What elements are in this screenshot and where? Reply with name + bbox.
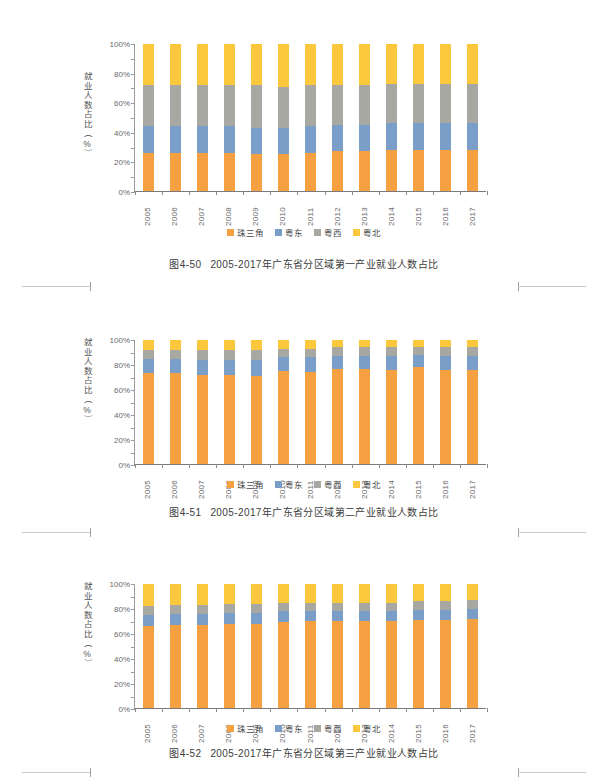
legend-item-珠三角[interactable]: 珠三角 — [227, 722, 264, 734]
stacked-bar[interactable] — [224, 44, 235, 191]
x-axis-tick-mark — [325, 708, 326, 712]
stacked-bar[interactable] — [197, 340, 208, 464]
bar-segment-粤东 — [197, 360, 208, 375]
y-axis-tick-mark — [131, 440, 135, 441]
stacked-bar[interactable] — [143, 340, 154, 464]
stacked-bar[interactable] — [305, 584, 316, 708]
stacked-bar[interactable] — [440, 44, 451, 191]
stacked-bar[interactable] — [278, 44, 289, 191]
legend-item-珠三角[interactable]: 珠三角 — [227, 478, 264, 490]
stacked-bar[interactable] — [170, 44, 181, 191]
legend-item-粤东[interactable]: 粤东 — [275, 226, 303, 238]
stacked-bar[interactable] — [278, 340, 289, 464]
stacked-bar[interactable] — [467, 340, 478, 464]
stacked-bar[interactable] — [413, 584, 424, 708]
stacked-bar[interactable] — [170, 340, 181, 464]
x-axis-tick-mark — [460, 464, 461, 468]
stacked-bar[interactable] — [386, 44, 397, 191]
bar-segment-粤东 — [170, 614, 181, 625]
bar-segment-粤西 — [143, 606, 154, 615]
bar-segment-粤西 — [224, 85, 235, 126]
stacked-bar[interactable] — [332, 44, 343, 191]
crop-mark-right — [496, 528, 586, 537]
stacked-bar[interactable] — [251, 44, 262, 191]
bar-segment-粤西 — [359, 347, 370, 356]
x-axis-tick-mark — [460, 191, 461, 195]
y-axis-tick-label: 60% — [114, 99, 130, 108]
stacked-bar[interactable] — [305, 44, 316, 191]
stacked-bar[interactable] — [251, 584, 262, 708]
bar-segment-粤北 — [251, 340, 262, 350]
stacked-bar[interactable] — [197, 584, 208, 708]
crop-mark-tick — [90, 282, 91, 291]
bar-segment-珠三角 — [197, 153, 208, 191]
legend-swatch-icon — [275, 725, 282, 732]
y-axis-tick-mark — [131, 697, 135, 698]
stacked-bar[interactable] — [332, 584, 343, 708]
crop-mark-tick — [90, 528, 91, 537]
crop-mark-left — [22, 528, 112, 537]
stacked-bar[interactable] — [413, 44, 424, 191]
x-axis-label: 2016 — [432, 196, 459, 226]
stacked-bar[interactable] — [251, 340, 262, 464]
y-axis-tick-mark — [131, 353, 135, 354]
legend-item-粤北[interactable]: 粤北 — [353, 478, 381, 490]
x-axis-tick-mark — [460, 708, 461, 712]
bar-segment-粤北 — [251, 584, 262, 604]
x-axis-tick-mark — [433, 464, 434, 468]
stacked-bar[interactable] — [332, 340, 343, 464]
y-axis-tick-mark — [131, 634, 135, 635]
stacked-bar[interactable] — [143, 584, 154, 708]
stacked-bar[interactable] — [278, 584, 289, 708]
x-axis-tick-mark — [406, 464, 407, 468]
y-axis-tick-mark — [131, 192, 135, 193]
bar-slot — [135, 340, 162, 464]
x-axis-tick-mark — [162, 464, 163, 468]
y-axis-tick-mark — [131, 162, 135, 163]
stacked-bar[interactable] — [413, 340, 424, 464]
legend-item-粤东[interactable]: 粤东 — [275, 722, 303, 734]
legend-item-粤西[interactable]: 粤西 — [314, 226, 342, 238]
stacked-bar[interactable] — [467, 584, 478, 708]
bar-segment-珠三角 — [278, 622, 289, 708]
stacked-bar[interactable] — [467, 44, 478, 191]
figure-number: 图4-51 — [169, 507, 201, 518]
legend-item-粤西[interactable]: 粤西 — [314, 722, 342, 734]
bar-segment-粤西 — [332, 85, 343, 125]
x-axis-tick-mark — [487, 708, 488, 712]
stacked-bar[interactable] — [197, 44, 208, 191]
stacked-bar[interactable] — [440, 584, 451, 708]
figure-caption: 图4-502005-2017年广东省分区域第一产业就业人数占比 — [0, 256, 608, 271]
x-axis-label: 2012 — [324, 196, 351, 226]
stacked-bar[interactable] — [440, 340, 451, 464]
bar-segment-粤西 — [143, 85, 154, 126]
x-axis-tick-mark — [325, 464, 326, 468]
x-axis-tick-mark — [189, 464, 190, 468]
bar-segment-珠三角 — [440, 370, 451, 464]
legend-item-珠三角[interactable]: 珠三角 — [227, 226, 264, 238]
stacked-bar[interactable] — [305, 340, 316, 464]
bar-segment-粤西 — [440, 347, 451, 356]
crop-mark-right — [496, 282, 586, 291]
stacked-bar[interactable] — [143, 44, 154, 191]
stacked-bar[interactable] — [224, 340, 235, 464]
stacked-bar[interactable] — [224, 584, 235, 708]
legend-item-粤北[interactable]: 粤北 — [353, 226, 381, 238]
stacked-bar[interactable] — [359, 340, 370, 464]
bar-segment-粤西 — [359, 85, 370, 125]
bar-slot — [324, 44, 351, 191]
bar-slot — [243, 340, 270, 464]
bar-segment-珠三角 — [413, 620, 424, 708]
x-axis-labels: 2005200620072008200920102011201220132014… — [134, 196, 486, 226]
stacked-bar[interactable] — [386, 340, 397, 464]
y-axis-tick-mark — [131, 428, 135, 429]
legend-item-粤东[interactable]: 粤东 — [275, 478, 303, 490]
x-axis-tick-mark — [433, 708, 434, 712]
stacked-bar[interactable] — [359, 584, 370, 708]
stacked-bar[interactable] — [386, 584, 397, 708]
legend-item-粤西[interactable]: 粤西 — [314, 478, 342, 490]
stacked-bar[interactable] — [170, 584, 181, 708]
bar-slot — [351, 584, 378, 708]
stacked-bar[interactable] — [359, 44, 370, 191]
legend-item-粤北[interactable]: 粤北 — [353, 722, 381, 734]
